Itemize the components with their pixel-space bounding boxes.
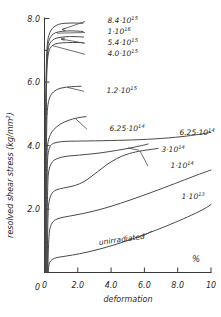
x-tick-labels: 0 2.0 4.0 6.0 8.0 10 — [42, 281, 216, 290]
x-tick-label-10: 10 — [206, 281, 216, 290]
stress-strain-plot: 8.0 6.0 4.0 2.0 0 0 2.0 4.0 6.0 8.0 10 %… — [0, 0, 221, 317]
x-tick-label-8: 8.0 — [171, 281, 184, 290]
x-tick-label-0: 0 — [42, 281, 47, 290]
x-axis-unit: % — [192, 254, 200, 264]
x-axis-ticks — [45, 268, 212, 273]
label-unirradiated: unirradiated — [77, 229, 162, 250]
label-6-25e14-upper: 6.25·1014 — [88, 121, 161, 133]
chart-figure: 8.0 6.0 4.0 2.0 0 0 2.0 4.0 6.0 8.0 10 %… — [0, 0, 221, 317]
curve-4-0e15 — [46, 42, 84, 272]
x-axis-title: deformation — [103, 295, 152, 304]
label-1e14: 1·1014 — [149, 158, 210, 170]
y-axis-title-tail: ) — [6, 112, 15, 116]
leader-1-2e15 — [67, 87, 84, 91]
label-6-25e14-right: 6.25·1014 — [158, 125, 221, 137]
y-axis-title-main: resolved shear stress (kg/mm — [6, 118, 15, 237]
curve-annotations-group: 8.4·1015 1·1016 5.4·1015 4.0·1015 1.2·10… — [77, 13, 221, 250]
leader-6-25e14 — [75, 118, 87, 129]
curve-5-4e15 — [46, 37, 84, 272]
leader-1e16 — [57, 33, 85, 34]
curve-1e14 — [47, 149, 158, 273]
y-tick-label-6: 6.0 — [27, 78, 40, 87]
label-4-0e15: 4.0·1015 — [86, 46, 155, 58]
curve-1-2e15 — [46, 86, 81, 272]
curve-1e16 — [45, 31, 83, 272]
y-axis-title: resolved shear stress (kg/mm2) — [5, 112, 15, 238]
y-tick-label-8: 8.0 — [27, 15, 40, 24]
y-tick-label-0: 0 — [35, 283, 40, 292]
x-tick-label-6: 6.0 — [138, 281, 151, 290]
y-tick-labels: 8.0 6.0 4.0 2.0 0 — [27, 15, 40, 293]
y-tick-label-2: 2.0 — [27, 205, 40, 214]
curve-8-4e15 — [45, 23, 83, 272]
x-tick-label-4: 4.0 — [105, 281, 118, 290]
leader-4-0e15 — [52, 46, 85, 55]
curve-1e13 — [48, 170, 211, 272]
y-tick-label-4: 4.0 — [27, 142, 40, 151]
svg-text:resolved shear stress (kg/mm2): resolved shear stress (kg/mm2) — [5, 112, 15, 238]
curve-3e14 — [47, 144, 148, 272]
leader-3e14 — [128, 148, 139, 150]
label-1-2e15: 1.2·1015 — [85, 83, 154, 95]
label-1e13: 1·1013 — [160, 189, 221, 201]
x-tick-label-2: 2.0 — [71, 281, 84, 290]
label-3e14: 3·1014 — [140, 142, 201, 154]
leader-arrow-8-4e15 — [62, 28, 66, 31]
